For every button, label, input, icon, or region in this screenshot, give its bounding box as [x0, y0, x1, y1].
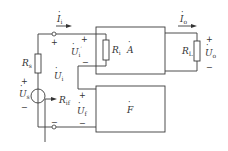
rs-label: Rs	[21, 58, 32, 69]
input-terminal-top	[52, 32, 56, 36]
uo-dot: ·	[206, 41, 209, 50]
circuit-diagram: Ii · Io · Rs + Us · − Ui · + Ui′ · − + −…	[0, 0, 228, 151]
ui-dot: ·	[55, 64, 58, 73]
ri-resistor	[103, 40, 109, 60]
rl-resistor	[194, 41, 200, 61]
ui-prime-plus: +	[81, 35, 88, 44]
uf-minus: −	[79, 119, 86, 128]
us-minus: −	[21, 103, 28, 112]
rs-resistor	[35, 54, 41, 73]
us-dot: ·	[20, 82, 23, 91]
io-dot: ·	[181, 8, 184, 17]
ui-prime-minus: −	[82, 58, 89, 67]
ii-dot: ·	[58, 8, 61, 17]
input-top-plus: +	[51, 38, 58, 47]
uo-minus: −	[206, 63, 213, 72]
ii-arrowhead-icon	[66, 24, 72, 28]
input-bottom-minus: −	[51, 118, 58, 127]
rif-label: Rif	[58, 95, 71, 106]
io-arrowhead-icon	[191, 24, 197, 28]
f-dot: ·	[128, 98, 131, 107]
a-dot: ·	[128, 38, 131, 47]
rif-arrowhead-icon	[51, 97, 57, 101]
uf-dot: ·	[78, 99, 81, 108]
rl-label: RL	[181, 46, 193, 57]
left-source-wire	[38, 34, 96, 127]
ui-prime-dot: ·	[72, 40, 75, 49]
